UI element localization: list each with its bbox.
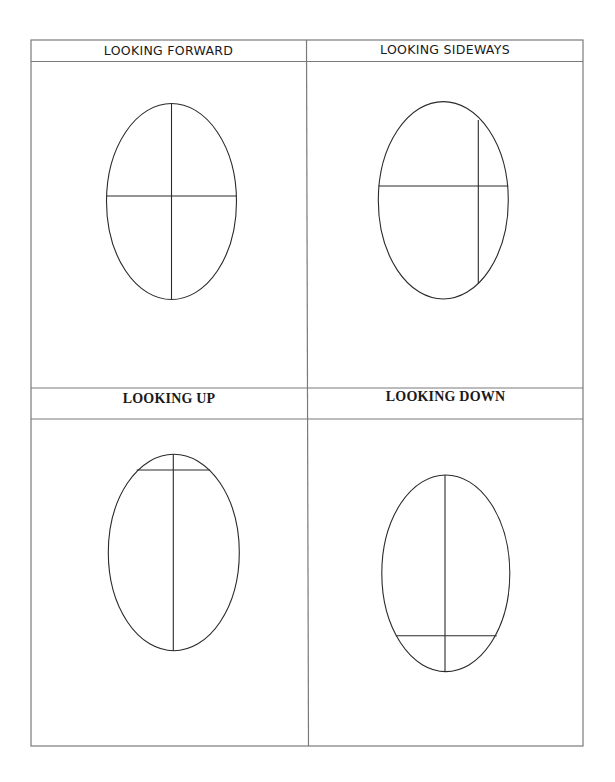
panel-looking-sideways-drawing [378, 102, 508, 299]
panel-title-looking-forward: LOOKING FORWARD [31, 45, 306, 58]
face-angles-worksheet: LOOKING FORWARD LOOKING SIDEWAYS LOOKING… [0, 0, 615, 782]
panel-looking-up-drawing [108, 454, 239, 650]
panel-looking-down-drawing [382, 475, 510, 672]
head-oval [382, 475, 510, 672]
panel-title-looking-up: LOOKING UP [31, 392, 307, 406]
panel-title-looking-sideways: LOOKING SIDEWAYS [307, 44, 583, 57]
head-oval [378, 102, 508, 299]
panel-looking-forward-drawing [107, 104, 237, 300]
panel-title-looking-down: LOOKING DOWN [308, 390, 583, 404]
